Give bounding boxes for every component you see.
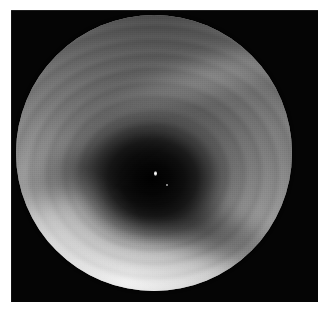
page: Grayscale endoscopic view of a tubular m… (0, 0, 325, 309)
image-grain (16, 15, 292, 291)
fold-lower-right (16, 15, 292, 291)
specular-highlight-icon (154, 171, 157, 176)
glow-lower-left (16, 15, 292, 291)
endoscope-field-of-view (16, 15, 292, 291)
base-illumination-layer (16, 15, 292, 291)
optical-vignette (16, 15, 292, 291)
endoscopic-image-plate (11, 10, 318, 302)
glow-bottom (16, 15, 292, 291)
figure-description: Grayscale endoscopic view of a tubular m… (0, 0, 1, 1)
specular-highlight-2-icon (166, 184, 168, 186)
lumen-opening (16, 15, 292, 291)
lumen-halo (16, 15, 292, 291)
upper-shadow-layer (16, 15, 292, 291)
band-upper-right (16, 15, 292, 291)
fold-upper-left (16, 15, 292, 291)
mucosal-fold-rings (16, 15, 292, 291)
figure-caption (0, 0, 1, 1)
